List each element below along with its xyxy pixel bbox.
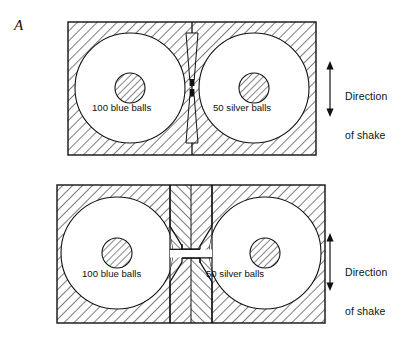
center-hub-top-right xyxy=(239,73,269,103)
shake-label-line1-bottom: Direction xyxy=(345,266,387,279)
chamber-top-right xyxy=(192,22,316,155)
shake-direction-label-bottom: Direction of shake xyxy=(345,240,387,343)
aperture-top-lower xyxy=(190,89,195,96)
apparatus-top xyxy=(68,22,334,155)
chamber-label-top-right: 50 silver balls xyxy=(213,102,271,113)
aperture-slot-bottom xyxy=(170,250,212,258)
shake-arrow-top xyxy=(326,61,333,117)
center-hub-top-left xyxy=(115,73,145,103)
aperture-top-upper xyxy=(190,79,195,86)
chamber-label-bottom-right: 50 silver balls xyxy=(206,268,264,279)
shake-label-line1-top: Direction xyxy=(345,90,387,103)
chamber-label-bottom-left: 100 blue balls xyxy=(82,268,141,279)
chamber-bottom-right xyxy=(209,185,325,323)
shake-arrow-bottom xyxy=(326,233,333,291)
panel-label-a: A xyxy=(14,18,23,33)
chamber-bottom-left xyxy=(57,185,173,323)
shake-label-line2-top: of shake xyxy=(345,129,387,142)
center-hub-bottom-left xyxy=(102,238,132,268)
shake-label-line2-bottom: of shake xyxy=(345,305,387,318)
figure-panel-a: A xyxy=(0,0,409,343)
divider-bottom xyxy=(170,185,212,323)
shake-direction-label-top: Direction of shake xyxy=(345,64,387,168)
chamber-top-left xyxy=(68,22,192,155)
apparatus-bottom xyxy=(57,185,334,323)
center-hub-bottom-right xyxy=(250,238,280,268)
chamber-label-top-left: 100 blue balls xyxy=(92,102,151,113)
